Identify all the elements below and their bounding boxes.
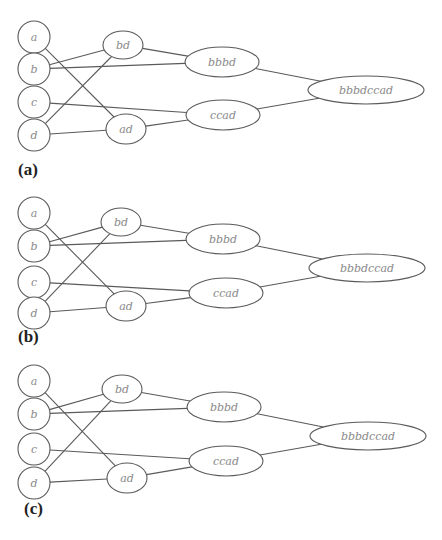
edge-bd-bbbd (142, 48, 188, 56)
node-bbbdccad: bbbdccad (308, 76, 424, 104)
edge-ad-ccad (146, 120, 189, 126)
node-label: ad (120, 472, 134, 485)
node-bd: bd (102, 375, 142, 403)
edge-d-ad (50, 308, 106, 312)
edge-bd-bbbd (140, 225, 188, 233)
edge-bbbd-bbbdccad (255, 68, 320, 81)
edge-d-bd (45, 401, 111, 472)
node-label: c (31, 96, 37, 109)
merge-tree-diagrams: abcdbdadbbbdccadbbbdccad(a)abcdbdadbbbdc… (0, 0, 442, 540)
node-label: b (30, 408, 37, 421)
node-label: b (30, 240, 37, 253)
node-label: ad (119, 300, 133, 313)
panel-b: abcdbdadbbbdccadbbbdccad(b) (18, 197, 425, 346)
node-a: a (18, 197, 50, 229)
edges (45, 48, 321, 134)
node-bbbd: bbbd (186, 224, 260, 254)
edge-b-bbbd (50, 240, 186, 245)
node-label: ccad (213, 287, 239, 300)
node-bbbdccad: bbbdccad (310, 422, 426, 450)
edge-d-ad (50, 130, 106, 134)
edge-b-bbbd (50, 408, 187, 413)
node-label: bbbdccad (341, 430, 395, 443)
node-label: bbbd (208, 56, 236, 69)
edge-c-ccad (50, 450, 189, 459)
node-bbbd: bbbd (185, 47, 259, 77)
edge-b-bd (49, 394, 103, 409)
node-bd: bd (101, 208, 141, 236)
node-b: b (18, 53, 50, 85)
node-b: b (18, 230, 50, 262)
node-label: a (31, 31, 38, 44)
node-bbbdccad: bbbdccad (309, 254, 425, 282)
node-ccad: ccad (186, 100, 260, 130)
edges (45, 224, 322, 311)
edge-b-bd (49, 227, 102, 242)
edge-ccad-bbbdccad (257, 98, 319, 109)
node-d: d (18, 119, 50, 151)
edge-d-ad (50, 479, 107, 482)
edge-c-ccad (50, 283, 189, 291)
node-label: bd (115, 383, 129, 396)
edge-d-bd (45, 57, 111, 124)
node-bd: bd (103, 31, 143, 59)
edge-bbbd-bbbdccad (256, 246, 322, 259)
edge-ad-ccad (146, 298, 191, 304)
node-label: ccad (210, 109, 236, 122)
node-d: d (18, 467, 50, 499)
node-label: ccad (213, 455, 239, 468)
edge-ad-ccad (146, 467, 191, 475)
node-a: a (18, 365, 50, 397)
node-label: bd (114, 216, 128, 229)
panel-label: (b) (18, 327, 39, 346)
edge-ccad-bbbdccad (260, 444, 321, 455)
edge-d-bd (45, 234, 110, 302)
node-label: a (31, 207, 38, 220)
edge-b-bd (49, 50, 104, 65)
edge-bd-bbbd (141, 392, 190, 401)
node-label: a (31, 375, 38, 388)
panel-a: abcdbdadbbbdccadbbbdccad(a) (18, 21, 424, 179)
node-ad: ad (106, 114, 146, 144)
node-label: c (31, 443, 37, 456)
node-bbbd: bbbd (187, 392, 261, 422)
node-ccad: ccad (189, 278, 263, 308)
edge-bbbd-bbbdccad (257, 414, 323, 427)
node-ad: ad (107, 463, 147, 493)
node-d: d (18, 297, 50, 329)
node-label: bbbdccad (340, 262, 394, 275)
panel-c: abcdbdadbbbdccadbbbdccad(c) (18, 365, 426, 518)
node-label: d (30, 307, 37, 320)
edge-ccad-bbbdccad (260, 276, 320, 287)
node-ccad: ccad (189, 446, 263, 476)
node-label: d (30, 129, 37, 142)
node-label: ad (119, 123, 133, 136)
node-label: bbbdccad (339, 84, 393, 97)
edge-b-bbbd (50, 63, 185, 68)
node-c: c (18, 433, 50, 465)
node-b: b (18, 398, 50, 430)
node-a: a (18, 21, 50, 53)
node-label: bbbd (210, 401, 238, 414)
node-label: d (30, 477, 37, 490)
panel-label: (c) (24, 499, 43, 518)
node-ad: ad (106, 291, 146, 321)
panel-label: (a) (18, 160, 38, 179)
edges (45, 392, 324, 482)
node-label: bbbd (209, 233, 237, 246)
node-label: bd (116, 39, 130, 52)
node-c: c (18, 266, 50, 298)
node-c: c (18, 86, 50, 118)
edge-c-ccad (50, 103, 187, 112)
node-label: b (30, 63, 37, 76)
node-label: c (31, 276, 37, 289)
edge-a-ad (45, 393, 115, 466)
